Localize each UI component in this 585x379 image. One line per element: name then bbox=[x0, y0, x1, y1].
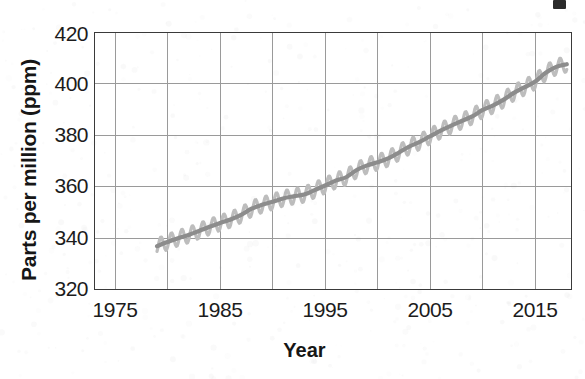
co2-concentration-chart: Parts per million (ppm) 420 400 380 360 … bbox=[0, 0, 585, 379]
x-tick-label: 1975 bbox=[70, 298, 160, 322]
x-axis-title-text: Year bbox=[283, 339, 325, 362]
x-axis-tick-labels: 1975 1985 1995 2005 2015 bbox=[0, 0, 585, 379]
x-tick-label: 1985 bbox=[175, 298, 265, 322]
x-tick-label: 1995 bbox=[280, 298, 370, 322]
x-tick-label: 2005 bbox=[385, 298, 475, 322]
x-axis-title: Year bbox=[0, 339, 585, 362]
x-tick-label: 2015 bbox=[490, 298, 580, 322]
